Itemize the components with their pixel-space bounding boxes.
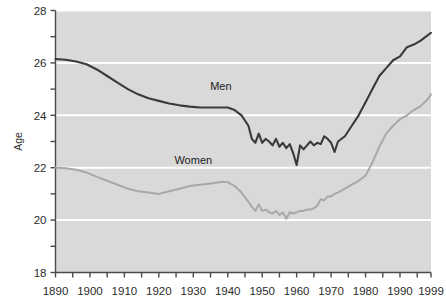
plot-area-background (56, 11, 432, 273)
x-tick-label-1910: 1910 (112, 285, 138, 297)
line-chart: 1820222426281890190019101920193019401950… (0, 0, 446, 307)
y-tick-label-28: 28 (34, 5, 47, 17)
y-tick-label-26: 26 (34, 57, 47, 69)
series-label-women: Women (174, 154, 212, 166)
x-tick-label-1960: 1960 (284, 285, 310, 297)
y-tick-label-24: 24 (34, 110, 47, 122)
x-tick-label-1890: 1890 (43, 285, 69, 297)
x-tick-label-1930: 1930 (181, 285, 207, 297)
x-tick-label-1950: 1950 (249, 285, 275, 297)
axis-title-group: Age (12, 132, 24, 151)
y-tick-label-18: 18 (34, 267, 47, 279)
plot-background-group (56, 11, 432, 273)
y-tick-label-20: 20 (34, 214, 47, 226)
x-tick-label-1970: 1970 (318, 285, 344, 297)
x-tick-label-1990: 1990 (387, 285, 413, 297)
series-label-men: Men (210, 80, 231, 92)
y-tick-label-22: 22 (34, 162, 47, 174)
chart-container: 1820222426281890190019101920193019401950… (0, 0, 446, 307)
x-tick-label-1900: 1900 (77, 285, 103, 297)
y-axis-title: Age (12, 132, 24, 151)
x-tick-label-1920: 1920 (146, 285, 172, 297)
x-tick-label-1940: 1940 (215, 285, 241, 297)
x-tick-label-1980: 1980 (353, 285, 379, 297)
x-tick-label-1999: 1999 (418, 285, 444, 297)
